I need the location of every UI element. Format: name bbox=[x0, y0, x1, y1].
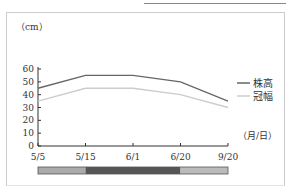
y-tick-label: 40 bbox=[23, 90, 35, 100]
x-axis: 5/55/156/16/209/20 bbox=[31, 143, 239, 162]
y-axis: 0102030405060 bbox=[23, 64, 41, 151]
y-tick-label: 0 bbox=[28, 141, 34, 151]
stage-segment bbox=[38, 167, 86, 174]
y-axis-label: （cm） bbox=[16, 22, 48, 32]
x-axis-label: （月/日） bbox=[238, 131, 277, 141]
stage-segment bbox=[181, 167, 229, 174]
stage-bar bbox=[38, 167, 228, 174]
x-tick-label: 6/1 bbox=[126, 152, 140, 162]
x-tick-label: 5/5 bbox=[31, 152, 46, 162]
y-tick-label: 50 bbox=[23, 77, 35, 87]
legend-label: 株高 bbox=[253, 77, 273, 89]
series-line bbox=[38, 88, 228, 107]
stage-segment bbox=[86, 167, 181, 174]
y-tick-label: 20 bbox=[23, 115, 35, 125]
y-tick-label: 10 bbox=[23, 128, 35, 138]
y-tick-label: 30 bbox=[23, 103, 35, 113]
x-tick-label: 9/20 bbox=[218, 152, 238, 162]
legend: 株高冠幅 bbox=[237, 77, 273, 102]
line-chart: （cm） 0102030405060 5/55/156/16/209/20 株高… bbox=[0, 0, 287, 189]
x-tick-label: 6/20 bbox=[170, 152, 190, 162]
x-tick-label: 5/15 bbox=[75, 152, 95, 162]
legend-label: 冠幅 bbox=[253, 90, 273, 102]
y-tick-label: 60 bbox=[23, 64, 35, 74]
series-lines bbox=[38, 75, 228, 107]
